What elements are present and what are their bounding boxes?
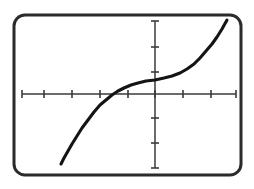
calculator-graph-canvas xyxy=(0,0,254,189)
graph-figure xyxy=(0,0,254,189)
